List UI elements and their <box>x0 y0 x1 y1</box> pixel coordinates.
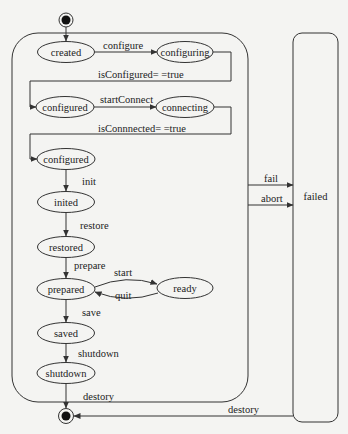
svg-text:ready: ready <box>173 283 197 294</box>
svg-text:connecting: connecting <box>162 102 209 113</box>
svg-text:created: created <box>51 47 82 58</box>
transition-save-label: save <box>82 307 101 318</box>
state-saved: saved <box>38 323 95 344</box>
transition-restore-label: restore <box>80 220 109 231</box>
transition-destory-failed-label: destory <box>228 404 260 415</box>
transition-is-connected-label: isConnnected= =true <box>98 123 186 134</box>
state-inited: inited <box>38 192 95 213</box>
state-configured-2: configured <box>37 149 95 170</box>
initial-state-icon <box>59 13 73 27</box>
state-ready: ready <box>157 278 213 299</box>
state-configured-1: configured <box>36 97 94 118</box>
svg-text:configured: configured <box>43 154 89 165</box>
svg-text:shutdown: shutdown <box>46 368 88 379</box>
transition-quit-label: quit <box>115 290 131 301</box>
transition-start <box>95 280 157 287</box>
transition-shutdown-label: shutdown <box>78 348 120 359</box>
state-shutdown: shutdown <box>37 363 95 384</box>
transition-is-configured-label: isConfigured= =true <box>98 69 184 80</box>
state-machine-diagram: failed created configure configuring isC… <box>0 0 348 434</box>
transition-start-label: start <box>114 267 132 278</box>
svg-text:prepared: prepared <box>48 284 85 295</box>
state-configuring: configuring <box>157 42 213 63</box>
transition-prepare-label: prepare <box>74 260 106 271</box>
svg-text:restored: restored <box>49 242 84 253</box>
svg-text:inited: inited <box>54 197 79 208</box>
main-lifecycle-container <box>12 33 248 402</box>
state-failed-label: failed <box>304 191 329 202</box>
transition-init-label: init <box>82 176 96 187</box>
failed-state-container <box>293 33 338 422</box>
transition-configure-label: configure <box>103 40 144 51</box>
state-created: created <box>38 42 95 63</box>
state-connecting: connecting <box>156 97 214 118</box>
transition-destory-main-label: destory <box>83 391 115 402</box>
svg-text:saved: saved <box>54 328 79 339</box>
transition-start-connect-label: startConnect <box>100 94 153 105</box>
state-restored: restored <box>38 237 95 258</box>
svg-text:configuring: configuring <box>161 47 211 58</box>
transition-abort-label: abort <box>261 193 283 204</box>
final-state-icon <box>59 409 74 424</box>
transition-fail-label: fail <box>264 173 278 184</box>
state-prepared: prepared <box>37 279 95 300</box>
svg-text:configured: configured <box>42 102 88 113</box>
